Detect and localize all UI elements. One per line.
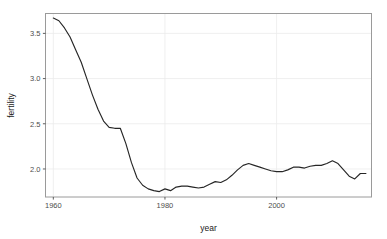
y-axis-title: fertility (6, 92, 16, 117)
plot-panel-background (46, 14, 372, 198)
x-tick-label: 1980 (157, 201, 174, 210)
y-tick-label: 2.5 (30, 120, 40, 129)
y-tick-label: 2.0 (30, 165, 40, 174)
y-tick-label: 3.5 (30, 29, 40, 38)
x-axis-title: year (200, 223, 217, 233)
x-tick-label: 1960 (45, 201, 62, 210)
chart-canvas: 196019802000 2.02.53.03.5 year fertility (0, 0, 387, 239)
x-tick-label: 2000 (268, 201, 285, 210)
fertility-line-chart: 196019802000 2.02.53.03.5 year fertility (0, 0, 387, 239)
y-tick-label: 3.0 (30, 74, 40, 83)
